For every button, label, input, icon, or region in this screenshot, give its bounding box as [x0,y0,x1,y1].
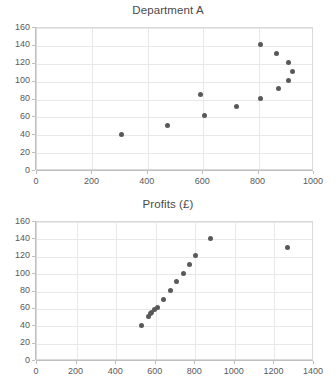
y-axis-tick-label: 100 [0,269,30,278]
x-axis-tick-mark [155,361,156,364]
gridline-vertical [235,222,236,359]
x-axis-line [36,170,313,171]
y-axis-tick-label: 40 [0,130,30,139]
y-axis-tick-label: 40 [0,321,30,330]
y-axis-tick-mark [32,152,35,153]
x-axis-tick-mark [36,171,37,174]
gridline-horizontal [37,326,312,327]
y-axis-tick-mark [32,256,35,257]
data-point [198,92,203,97]
y-axis-tick-mark [32,325,35,326]
plot-wrap-profits: 0204060801001201401600200400600800100012… [0,194,336,388]
x-axis-tick-label: 800 [174,367,214,376]
x-axis-tick-mark [202,171,203,174]
y-axis-tick-label: 120 [0,58,30,67]
x-axis-tick-label: 1000 [293,177,333,186]
gridline-vertical [148,28,149,169]
gridline-vertical [274,222,275,359]
y-axis-tick-label: 60 [0,303,30,312]
gridline-horizontal [37,117,312,118]
gridline-vertical [156,222,157,359]
x-axis-tick-mark [273,361,274,364]
x-axis-tick-label: 1000 [214,367,254,376]
y-axis-tick-label: 20 [0,148,30,157]
x-axis-tick-label: 0 [16,367,56,376]
data-point [187,262,192,267]
x-axis-tick-mark [91,171,92,174]
data-point [165,123,170,128]
gridline-horizontal [37,274,312,275]
y-axis-tick-mark [32,27,35,28]
y-axis-tick-label: 80 [0,94,30,103]
x-axis-tick-label: 0 [16,177,56,186]
gridline-horizontal [37,153,312,154]
x-axis-tick-mark [36,361,37,364]
gridline-horizontal [37,100,312,101]
gridline-horizontal [37,344,312,345]
y-axis-tick-label: 20 [0,338,30,347]
gridline-horizontal [37,135,312,136]
gridline-vertical [92,28,93,169]
y-axis-tick-mark [32,81,35,82]
y-axis-tick-label: 140 [0,234,30,243]
y-axis-tick-mark [32,45,35,46]
x-axis-tick-mark [234,361,235,364]
y-axis-tick-mark [32,360,35,361]
data-point [181,271,186,276]
gridline-horizontal [37,46,312,47]
y-axis-tick-mark [32,273,35,274]
x-axis-line [36,360,313,361]
x-axis-tick-label: 600 [182,177,222,186]
gridline-horizontal [37,292,312,293]
gridline-horizontal [37,222,312,223]
x-axis-tick-mark [313,361,314,364]
x-axis-tick-label: 200 [71,177,111,186]
y-axis-tick-mark [32,99,35,100]
y-axis-line [35,221,36,360]
plot-wrap-department-a: 02040608010012014016002004006008001000 [0,0,336,194]
x-axis-tick-mark [258,171,259,174]
gridline-horizontal [37,82,312,83]
gridline-horizontal [37,309,312,310]
gridline-horizontal [37,239,312,240]
x-axis-tick-mark [194,361,195,364]
gridline-vertical [116,222,117,359]
gridline-horizontal [37,64,312,65]
x-axis-tick-mark [147,171,148,174]
gridline-horizontal [37,28,312,29]
chart-department-a: Department A 020406080100120140160020040… [0,0,336,194]
data-point [208,236,213,241]
y-axis-tick-mark [32,116,35,117]
x-axis-tick-label: 200 [56,367,96,376]
y-axis-tick-label: 100 [0,76,30,85]
y-axis-tick-mark [32,308,35,309]
x-axis-tick-label: 600 [135,367,175,376]
data-point [286,60,291,65]
y-axis-tick-mark [32,63,35,64]
y-axis-tick-label: 160 [0,217,30,226]
y-axis-line [35,27,36,170]
y-axis-tick-label: 140 [0,40,30,49]
y-axis-tick-mark [32,238,35,239]
y-axis-tick-mark [32,291,35,292]
x-axis-tick-label: 1400 [293,367,333,376]
y-axis-tick-label: 160 [0,23,30,32]
data-point [285,245,290,250]
x-axis-tick-label: 800 [238,177,278,186]
x-axis-tick-mark [313,171,314,174]
gridline-vertical [77,222,78,359]
y-axis-tick-label: 120 [0,251,30,260]
data-point [202,113,207,118]
y-axis-tick-mark [32,343,35,344]
data-point [168,288,173,293]
x-axis-tick-label: 1200 [253,367,293,376]
x-axis-tick-mark [115,361,116,364]
x-axis-tick-mark [76,361,77,364]
y-axis-tick-label: 0 [0,166,30,175]
y-axis-tick-mark [32,170,35,171]
gridline-vertical [195,222,196,359]
data-point [161,297,166,302]
y-axis-tick-label: 0 [0,356,30,365]
gridline-horizontal [37,257,312,258]
data-point [290,69,295,74]
